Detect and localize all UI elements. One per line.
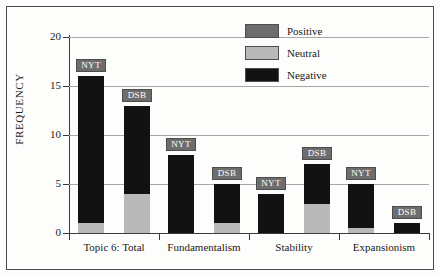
y-tick-label: 20 xyxy=(21,31,61,42)
bar-segment-neutral xyxy=(304,204,330,233)
bar-segment-neutral xyxy=(124,194,150,233)
x-category-separator xyxy=(429,233,430,240)
bar-dsb-2 xyxy=(304,164,330,233)
bar-segment-negative xyxy=(214,184,240,223)
legend-label: Neutral xyxy=(287,46,320,60)
figure-frame: FREQUENCY 20151050 NYTDSBNYTDSBNYTDSBNYT… xyxy=(6,6,434,270)
bar-label-dsb: DSB xyxy=(302,147,332,160)
bar-segment-negative xyxy=(258,194,284,233)
bar-dsb-3 xyxy=(394,223,420,233)
x-category-separator xyxy=(249,233,250,240)
y-tick-label: 5 xyxy=(21,178,61,189)
legend-swatch xyxy=(245,68,279,82)
bar-label-dsb: DSB xyxy=(122,89,152,102)
bar-nyt-0 xyxy=(78,76,104,233)
bar-label-nyt: NYT xyxy=(166,138,196,151)
bar-segment-neutral xyxy=(348,228,374,233)
bar-dsb-0 xyxy=(124,106,150,233)
y-tick-label: 10 xyxy=(21,129,61,140)
bar-label-nyt: NYT xyxy=(346,167,376,180)
bar-dsb-1 xyxy=(214,184,240,233)
bar-segment-negative xyxy=(78,76,104,223)
bar-nyt-1 xyxy=(168,155,194,233)
bar-label-dsb: DSB xyxy=(212,167,242,180)
bar-segment-negative xyxy=(168,155,194,233)
chart-legend: PositiveNeutralNegative xyxy=(245,23,365,89)
legend-swatch xyxy=(245,46,279,60)
bar-segment-negative xyxy=(394,223,420,233)
bar-segment-neutral xyxy=(214,223,240,233)
x-category-separator xyxy=(69,233,70,240)
gridline xyxy=(69,135,429,136)
x-category-label: Fundamentalism xyxy=(159,241,249,254)
x-category-separator xyxy=(339,233,340,240)
bar-label-nyt: NYT xyxy=(256,177,286,190)
x-category-label: Expansionism xyxy=(339,241,429,254)
y-tick-label: 15 xyxy=(21,80,61,91)
chart-figure: FREQUENCY 20151050 NYTDSBNYTDSBNYTDSBNYT… xyxy=(0,0,440,276)
x-category-label: Stability xyxy=(249,241,339,254)
y-tick-label: 0 xyxy=(21,227,61,238)
bar-segment-negative xyxy=(348,184,374,228)
y-axis-label: FREQUENCY xyxy=(13,19,25,199)
legend-label: Negative xyxy=(287,68,327,82)
bar-segment-negative xyxy=(304,164,330,203)
bar-segment-negative xyxy=(124,106,150,194)
legend-swatch xyxy=(245,24,279,38)
gridline xyxy=(69,184,429,185)
legend-label: Positive xyxy=(287,24,322,38)
legend-item: Neutral xyxy=(245,45,365,63)
legend-item: Negative xyxy=(245,67,365,85)
x-category-label: Topic 6: Total xyxy=(69,241,159,254)
bar-label-nyt: NYT xyxy=(76,59,106,72)
legend-item: Positive xyxy=(245,23,365,41)
bar-segment-neutral xyxy=(78,223,104,233)
x-category-separator xyxy=(159,233,160,240)
bar-nyt-2 xyxy=(258,194,284,233)
bar-label-dsb: DSB xyxy=(392,206,422,219)
bar-nyt-3 xyxy=(348,184,374,233)
